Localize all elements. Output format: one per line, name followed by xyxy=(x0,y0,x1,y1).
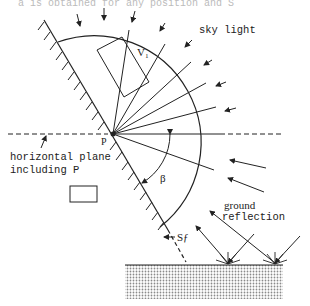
v1-label: V₁ xyxy=(137,46,149,58)
surface-sf-label: Sƒ xyxy=(177,231,189,243)
point-p-label: P xyxy=(101,136,107,148)
point-p-dot xyxy=(111,132,116,137)
beta-label: β xyxy=(160,172,166,184)
horizontal-plane-leader xyxy=(41,136,46,148)
top-caption-fragment: a is obtained for any position and S xyxy=(18,0,234,9)
horizontal-plane-label-line1: horizontal plane xyxy=(10,151,111,163)
inclined-surface xyxy=(44,20,186,262)
hemisphere-arc xyxy=(58,36,201,227)
ground-reflection-label-line2: reflection xyxy=(222,211,285,223)
ground-reflection-label-line1: ground xyxy=(224,199,255,211)
ground xyxy=(125,265,283,299)
ground-scatter-spikes xyxy=(216,252,287,264)
small-rectangle xyxy=(70,186,97,202)
horizontal-plane-label-line2: including P xyxy=(10,164,79,176)
sky-light-label: sky light xyxy=(199,24,256,36)
